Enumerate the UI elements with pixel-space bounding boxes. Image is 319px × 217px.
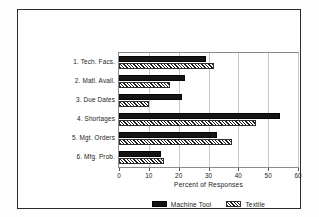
legend-item-textile: Textile: [226, 201, 265, 208]
x-axis-tick: [119, 168, 120, 171]
x-axis-tick: [238, 168, 239, 171]
chart-legend: Machine ToolTextile: [118, 198, 299, 210]
bar-textile: [119, 101, 149, 107]
legend-label: Machine Tool: [171, 201, 212, 208]
y-axis-tick-label: 4. Shortages: [33, 115, 115, 122]
y-axis-tick-label: 6. Mfg. Prob.: [33, 153, 115, 160]
bar-group: [119, 129, 298, 148]
bar-textile: [119, 82, 170, 88]
bar-group: [119, 72, 298, 91]
bar-machine-tool: [119, 132, 217, 138]
legend-label: Textile: [245, 201, 265, 208]
bar-textile: [119, 63, 214, 69]
bar-group: [119, 91, 298, 110]
bar-machine-tool: [119, 56, 206, 62]
bar-group: [119, 53, 298, 72]
x-axis-title: Percent of Responses: [118, 181, 299, 188]
x-axis-tick-label: 40: [235, 172, 242, 179]
bar-group: [119, 110, 298, 129]
bar-group: [119, 148, 298, 167]
plot-area: [118, 52, 299, 168]
bar-textile: [119, 158, 164, 164]
bar-machine-tool: [119, 75, 185, 81]
y-axis-tick-label: 1. Tech. Facs.: [33, 58, 115, 65]
bar-textile: [119, 120, 256, 126]
y-axis-tick-label: 2. Matl. Avail.: [33, 77, 115, 84]
x-axis-tick-label: 60: [294, 172, 301, 179]
figure-border: 1. Tech. Facs.2. Matl. Avail.3. Due Date…: [17, 9, 301, 209]
x-axis-tick-label: 20: [175, 172, 182, 179]
bar-machine-tool: [119, 151, 161, 157]
legend-item-machine-tool: Machine Tool: [152, 201, 212, 208]
legend-swatch-icon: [226, 201, 241, 207]
y-axis-tick-label: 3. Due Dates: [33, 96, 115, 103]
x-axis-tick: [209, 168, 210, 171]
figure-panel: 1. Tech. Facs.2. Matl. Avail.3. Due Date…: [0, 0, 319, 217]
gridline: [298, 53, 299, 167]
x-axis-tick-label: 10: [145, 172, 152, 179]
bar-machine-tool: [119, 94, 182, 100]
x-axis-tick-label: 0: [117, 172, 121, 179]
x-axis-tick-label: 50: [265, 172, 272, 179]
legend-swatch-icon: [152, 201, 167, 207]
x-axis-tick-label: 30: [205, 172, 212, 179]
x-axis-tick: [298, 168, 299, 171]
y-axis-tick-label: 5. Mgt. Orders: [33, 134, 115, 141]
bar-machine-tool: [119, 113, 280, 119]
x-axis-tick: [179, 168, 180, 171]
y-axis-category-labels: 1. Tech. Facs.2. Matl. Avail.3. Due Date…: [29, 52, 115, 168]
x-axis-tick: [149, 168, 150, 171]
x-axis-tick: [268, 168, 269, 171]
bar-textile: [119, 139, 232, 145]
